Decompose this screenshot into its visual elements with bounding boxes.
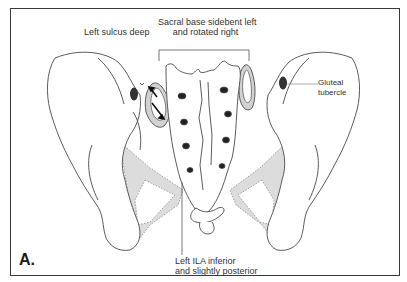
- left-sulcus-label: Left sulcus deep: [84, 27, 150, 37]
- sacral-base-line2: and rotated right: [158, 27, 253, 37]
- gluteal-line1: Gluteal: [318, 78, 346, 88]
- sacral-base-bracket: [159, 50, 249, 61]
- left-sulcus-mark: [130, 88, 138, 101]
- ila-label: Left ILA inferior and slightly posterior: [175, 256, 258, 276]
- ila-line1: Left ILA inferior: [175, 256, 258, 266]
- gluteal-tubercle-mark: [279, 77, 287, 90]
- panel-letter: A.: [19, 251, 35, 269]
- gluteal-line2: tubercle: [318, 88, 346, 98]
- caret-mark: [140, 83, 144, 85]
- gluteal-tubercle-label: Gluteal tubercle: [318, 78, 346, 98]
- ila-line2: and slightly posterior: [175, 266, 258, 276]
- pelvis-illustration: [0, 0, 407, 282]
- sacral-base-line1: Sacral base sidebent left: [158, 17, 253, 27]
- sacrum: [166, 61, 240, 234]
- sacral-base-label: Sacral base sidebent left and rotated ri…: [158, 17, 253, 37]
